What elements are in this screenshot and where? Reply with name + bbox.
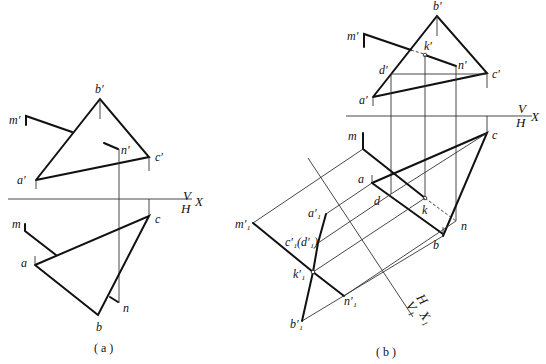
label-c-prime: c′: [155, 150, 163, 164]
label-m-prime-b: m′: [347, 29, 359, 43]
label-n1-prime: n′₁: [344, 294, 357, 308]
label-m-prime: m′: [9, 113, 21, 127]
triangle-top-view-a: [35, 216, 149, 315]
projector-d1: [318, 194, 391, 243]
label-d-b: d: [374, 194, 381, 208]
label-a: a: [21, 256, 27, 270]
label-n-b: n: [461, 219, 467, 233]
projection-diagram: b′ m′ n′ c′ a′ V H X m c a n b ( a ): [0, 0, 546, 364]
line-mn-front-b: [364, 34, 411, 50]
projector-a1: [326, 183, 372, 214]
label-k1-prime: k′₁: [293, 267, 305, 281]
label-b-prime: b′: [95, 82, 104, 96]
line-mn-front-b2: [425, 55, 456, 66]
label-m-b: m: [348, 129, 357, 143]
figure-a: b′ m′ n′ c′ a′ V H X m c a n b ( a ): [8, 82, 204, 355]
figure-b: b′ m′ k′ d′ n′ c′ a′ V H X m c a d k n b…: [235, 0, 540, 359]
triangle-front-view-a: [36, 99, 149, 180]
axis-label-h: H: [180, 201, 191, 216]
label-c-b: c: [492, 128, 498, 142]
line-a1b1-aux: [302, 214, 326, 321]
label-k-prime: k′: [424, 39, 432, 53]
label-b: b: [96, 320, 102, 334]
point-k1-prime: [311, 270, 315, 274]
line-mn-hidden: [411, 50, 424, 54]
label-a-b: a: [358, 172, 364, 186]
line-mn-top: [363, 133, 425, 198]
label-b-b: b: [433, 238, 439, 252]
caption-a: ( a ): [94, 341, 113, 355]
line-cd: [391, 133, 487, 194]
label-a-prime-b: a′: [359, 93, 368, 107]
label-n: n: [123, 301, 129, 315]
axis-label-v-b: V: [518, 101, 528, 116]
label-a-prime: a′: [17, 173, 26, 187]
projector-n1: [344, 221, 456, 296]
label-c1d1-prime: c′₁(d′₁): [285, 235, 318, 249]
label-c: c: [155, 212, 161, 226]
line-mn-top-a: [25, 224, 56, 255]
axis-label-x: X: [194, 194, 204, 209]
triangle-top-view-b: [372, 133, 487, 236]
label-n-prime-b: n′: [458, 58, 467, 72]
caption-b: ( b ): [376, 345, 396, 359]
line-mn-front-a2: [104, 143, 118, 149]
line-kn-hidden: [425, 198, 456, 221]
label-n-prime: n′: [121, 143, 130, 157]
axis-label-x-b: X: [530, 109, 540, 124]
label-d-prime: d′: [379, 63, 388, 77]
axis-label-h-b: H: [515, 115, 526, 130]
label-b1-prime: b′₁: [290, 317, 303, 331]
line-m1n1-aux: [253, 223, 344, 296]
line-mn-top-a2: [110, 297, 118, 302]
label-m: m: [12, 217, 21, 231]
label-b-prime-b: b′: [433, 0, 442, 13]
label-c-prime-b: c′: [492, 67, 500, 81]
label-a1-prime: a′₁: [308, 206, 321, 220]
label-m1-prime: m′₁: [235, 217, 250, 231]
label-k-b: k: [422, 203, 428, 217]
line-mn-front-a: [26, 116, 72, 132]
